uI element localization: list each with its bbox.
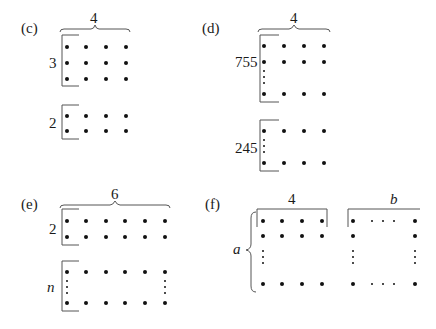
panel-c-label: (c) <box>21 20 38 37</box>
dot-grid-bottom <box>65 270 167 305</box>
rows-label-top: 2 <box>49 221 57 237</box>
panel-d: (d) 4 755 245 <box>202 10 330 171</box>
dot-grid-bottom <box>262 129 326 165</box>
panel-e: (e) 6 2 n <box>21 186 170 311</box>
dot-grid-left <box>261 219 324 286</box>
panel-f-label: (f) <box>205 196 220 213</box>
dot-grid-right <box>351 219 417 286</box>
panel-f: (f) 4 b a <box>205 191 420 292</box>
rows-bracket-bottom <box>62 105 79 139</box>
dot-grid-top <box>262 44 326 96</box>
panel-e-label: (e) <box>21 196 38 213</box>
panel-d-label: (d) <box>202 20 220 37</box>
rows-bracket-top <box>62 209 79 245</box>
dot-grid-top <box>65 45 128 81</box>
width-label: 4 <box>90 10 98 26</box>
rows-bracket-top <box>62 35 79 86</box>
left-width-bracket <box>257 209 327 227</box>
width-label: 4 <box>290 10 298 26</box>
rows-label-top: 3 <box>49 55 57 71</box>
rows-bracket-bottom <box>62 261 79 311</box>
rows-label: a <box>233 241 241 257</box>
dot-grid-top <box>65 219 167 239</box>
right-width-label: b <box>390 191 398 207</box>
rows-label-bottom: n <box>47 279 55 295</box>
width-brace <box>258 25 330 32</box>
left-width-label: 4 <box>288 191 296 207</box>
rows-brace <box>246 212 256 292</box>
rows-label-bottom: 2 <box>49 115 57 131</box>
dot-grid-bottom <box>65 114 128 133</box>
rows-label-bottom: 245 <box>235 140 258 156</box>
width-brace <box>60 25 130 32</box>
panel-c: (c) 4 3 2 <box>21 10 130 139</box>
rows-label-top: 755 <box>235 54 258 70</box>
dot-array-diagram: (c) 4 3 2 (d) 4 755 <box>0 0 436 329</box>
width-brace <box>60 201 170 208</box>
width-label: 6 <box>111 186 119 202</box>
right-width-bracket <box>348 209 420 227</box>
